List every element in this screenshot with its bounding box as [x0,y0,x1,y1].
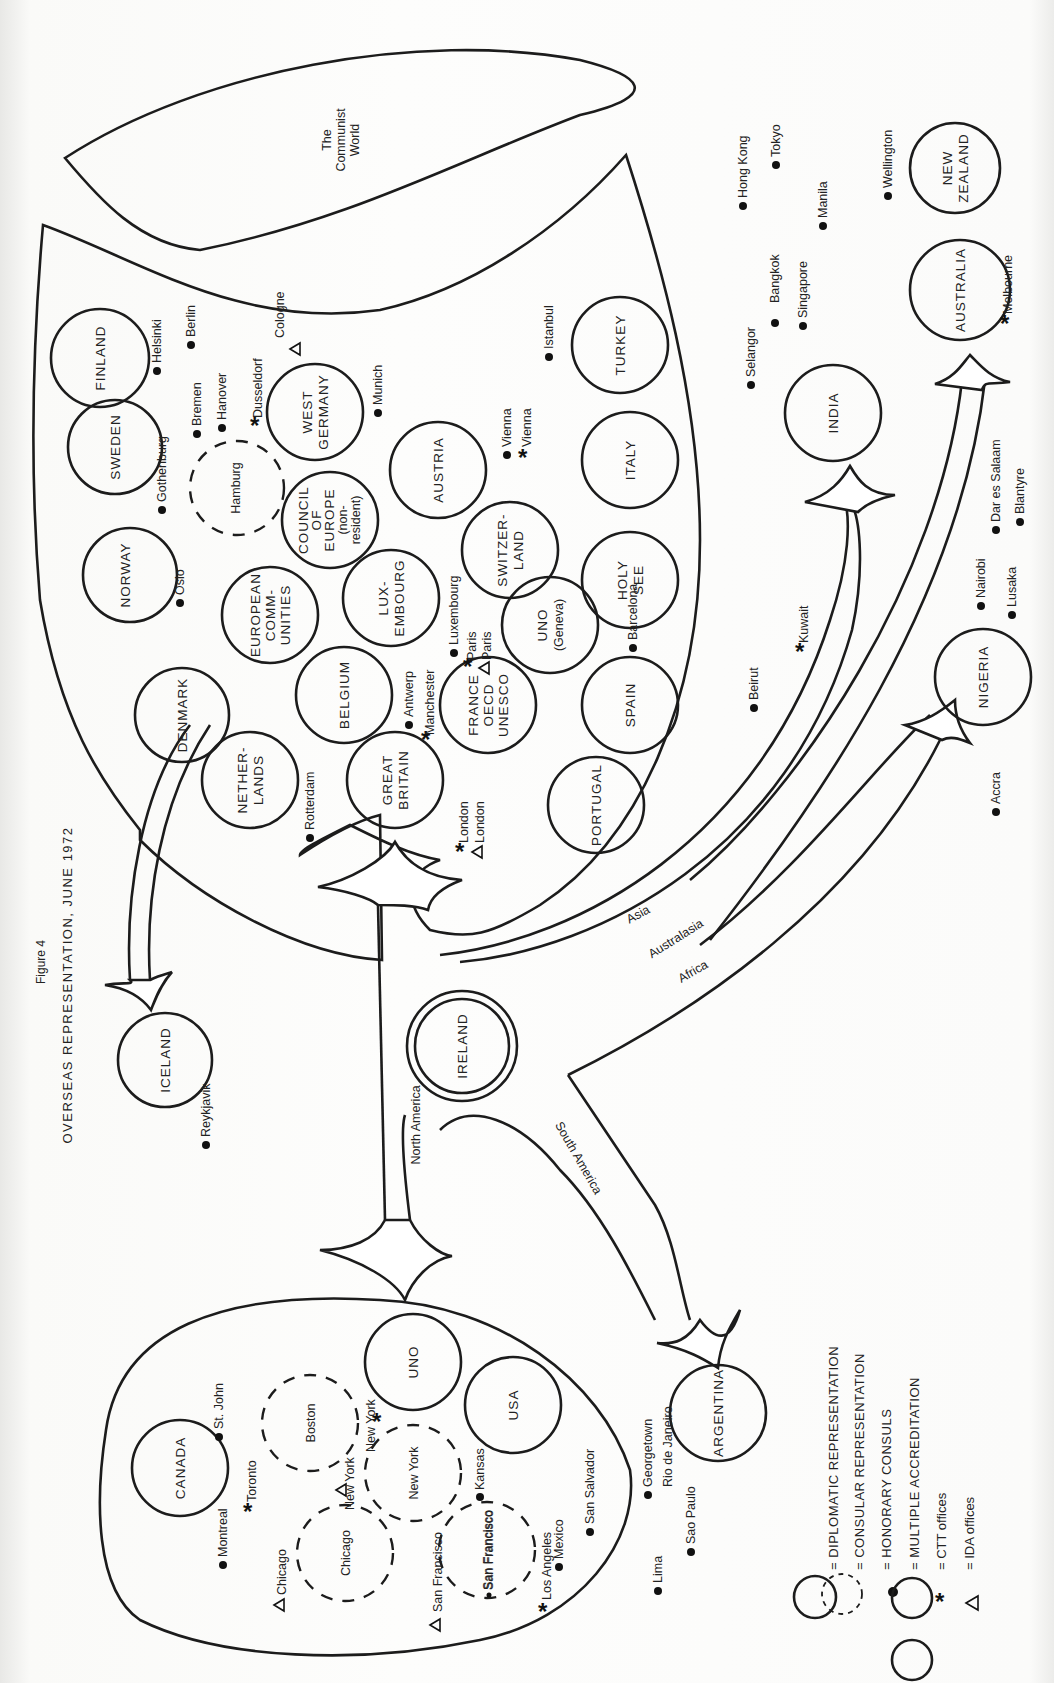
svg-text:Rio de Janeiro: Rio de Janeiro [661,1406,675,1487]
svg-text:AUSTRALIA: AUSTRALIA [953,248,968,332]
legend-diplomatic-symbol [794,1576,836,1618]
south-america-arrow-outline [568,1075,690,1320]
svg-text:ITALY: ITALY [623,440,638,481]
city-hanover: Hanover [215,373,229,432]
svg-text:San Francisco: San Francisco [431,1532,445,1612]
portugal-label: PORTUGAL [589,764,604,846]
svg-text:Melbourne: Melbourne [1001,255,1015,314]
svg-text:Reykjavik: Reykjavik [199,1083,213,1137]
figure-title: OVERSEAS REPRESENTATION, JUNE 1972 [60,826,75,1143]
nigeria-arrowhead [905,700,970,743]
new-york-label: New York [407,1446,421,1500]
city-helsinki: Helsinki [150,319,164,375]
svg-text:Montreal: Montreal [216,1508,230,1557]
city-mexico: Mexico [552,1519,566,1571]
switzerland-circle [462,502,558,598]
svg-text:The: The [320,129,334,151]
city-dar-es-salaam: Dar es Salaam [989,439,1003,534]
svg-text:Accra: Accra [989,772,1003,804]
city-kuwait: *Kuwait [795,605,811,665]
south-america-arrow-inner [440,1116,655,1320]
svg-text:Tokyo: Tokyo [769,124,783,157]
new-zealand-label: NEW ZEALAND [940,133,971,202]
city-bangkok: Bangkok [768,254,782,327]
legend-ida-icon [966,1596,978,1610]
svg-text:UNITIES: UNITIES [278,585,293,645]
city-luxembourg: Luxembourg [447,575,461,657]
svg-text:Boston: Boston [304,1403,318,1442]
svg-text:Lima: Lima [651,1556,665,1583]
svg-text:Barcelona: Barcelona [626,584,640,640]
svg-text:EUROPEAN: EUROPEAN [248,573,263,657]
svg-text:WEST: WEST [300,391,315,434]
italy-label: ITALY [623,440,638,481]
australasia-label: Australasia [646,916,706,961]
argentina-label: ARGENTINA [711,1369,726,1457]
svg-text:Manila: Manila [816,181,830,218]
svg-text:Lusaka: Lusaka [1005,567,1019,607]
svg-text:OECD: OECD [481,683,496,726]
city-dusseldorf: *Dusseldorf [250,358,265,439]
city-chicago-ida: Chicago [274,1549,289,1611]
svg-text:Bremen: Bremen [190,382,204,426]
city-london-ctt: *London [455,801,471,865]
figure-label: Figure 4 [34,940,48,984]
svg-text:(non-: (non- [336,505,350,534]
city-rio-de-janeiro: Rio de Janeiro [661,1406,675,1487]
asia-label: Asia [624,903,652,927]
svg-text:Helsinki: Helsinki [150,319,164,363]
switzerland-label: SWITZER- LAND [495,513,526,586]
city-paris-ida: Paris [479,632,494,674]
city-new-york-ida: New York [336,1456,357,1510]
svg-text:Selangor: Selangor [744,327,758,377]
svg-text:Australasia: Australasia [646,916,706,961]
svg-text:FRANCE: FRANCE [466,674,481,736]
svg-text:Istanbul: Istanbul [542,305,556,349]
ireland-label: IRELAND [455,1013,470,1079]
city-singapore: Singapore [796,261,810,330]
north-america-label: North America [409,1085,423,1164]
european-communities-label: EUROPEAN COMM- UNITIES [248,573,293,657]
svg-text:BELGIUM: BELGIUM [337,661,352,729]
uno-geneva-label: UNO (Geneva) [535,599,566,651]
svg-text:Georgetown: Georgetown [641,1419,655,1487]
svg-text:South America: South America [552,1119,605,1196]
city-istanbul: Istanbul [542,305,556,361]
norway-label: NORWAY [118,542,133,607]
svg-text:Toronto: Toronto [245,1460,259,1502]
svg-text:Luxembourg: Luxembourg [447,575,461,645]
city-san-salvador: San Salvador [583,1449,597,1536]
overseas-representation-diagram: Figure 4 OVERSEAS REPRESENTATION, JUNE 1… [0,0,1054,1683]
canada-label: CANADA [173,1437,188,1499]
city-manila: Manila [816,181,830,230]
svg-text:New York: New York [364,1398,378,1452]
luxembourg-label: LUX- EMBOURG [376,560,407,637]
denmark-label: DENMARK [175,678,190,753]
boston-label: Boston [304,1403,318,1442]
city-nairobi: Nairobi [974,558,988,610]
svg-text:= MULTIPLE ACCREDITATION: = MULTIPLE ACCREDITATION [907,1377,922,1570]
australasia-arrow-inner [710,380,985,940]
svg-text:New York: New York [407,1446,421,1500]
netherlands-circle [202,732,298,828]
svg-text:= IDA offices: = IDA offices [962,1496,977,1570]
city-oslo: Oslo [173,569,187,607]
svg-text:Africa: Africa [676,957,711,985]
svg-text:Figure 4: Figure 4 [34,940,48,984]
svg-text:LANDS: LANDS [251,755,266,805]
legend: * = DIPLOMATIC REPRESENTATION = CONSULAR… [794,1346,978,1680]
spain-label: SPAIN [623,683,638,728]
austria-label: AUSTRIA [431,437,446,503]
svg-text:Asia: Asia [624,903,652,927]
svg-text:San Salvador: San Salvador [583,1449,597,1524]
city-cologne: Cologne [273,291,300,355]
svg-text:CANADA: CANADA [173,1437,188,1499]
city-antwerp: Antwerp [402,671,416,729]
ida-office-icon [479,662,489,674]
svg-text:Beirut: Beirut [747,667,761,700]
city-paris-ctt: *Paris [463,632,479,680]
svg-text:= DIPLOMATIC REPRESENTATION: = DIPLOMATIC REPRESENTATION [826,1346,841,1570]
city-toronto: *Toronto [243,1460,259,1525]
svg-text:SPAIN: SPAIN [623,683,638,728]
city-new-york-ctt: *New York [364,1398,382,1452]
